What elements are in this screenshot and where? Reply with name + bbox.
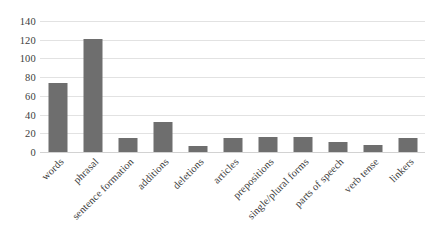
- bar-slot: [75, 21, 110, 152]
- bar-slot: [180, 21, 215, 152]
- x-label-slot: articles: [215, 152, 250, 250]
- x-tick-label: phrasal: [71, 156, 101, 186]
- bar: [153, 122, 172, 152]
- bar-slot: [320, 21, 355, 152]
- x-axis-labels: wordsphrasalsentence formationadditionsd…: [40, 152, 425, 250]
- bar-slot: [40, 21, 75, 152]
- bar-slot: [285, 21, 320, 152]
- bar: [258, 137, 277, 152]
- bar-series: [40, 21, 425, 152]
- bar: [118, 138, 137, 152]
- y-tick-label-120: 120: [0, 34, 36, 45]
- bar-slot: [215, 21, 250, 152]
- bar: [293, 137, 312, 152]
- x-label-slot: sentence formation: [110, 152, 145, 250]
- bar: [223, 138, 242, 152]
- y-axis: 140120100806040200: [0, 21, 36, 152]
- plot-area: [40, 21, 425, 152]
- bar: [48, 83, 67, 152]
- bar: [83, 39, 102, 152]
- x-label-slot: deletions: [180, 152, 215, 250]
- bar-slot: [145, 21, 180, 152]
- bar-slot: [250, 21, 285, 152]
- y-tick-label-60: 60: [0, 90, 36, 101]
- y-tick-label-20: 20: [0, 128, 36, 139]
- y-tick-label-40: 40: [0, 109, 36, 120]
- bar: [398, 138, 417, 152]
- bar-chart: 140120100806040200 wordsphrasalsentence …: [0, 0, 440, 250]
- x-tick-label: articles: [210, 156, 240, 186]
- y-tick-label-80: 80: [0, 72, 36, 83]
- x-label-slot: linkers: [390, 152, 425, 250]
- y-tick-label-0: 0: [0, 147, 36, 158]
- bar-slot: [355, 21, 390, 152]
- x-tick-label: linkers: [387, 156, 416, 185]
- y-tick-label-100: 100: [0, 53, 36, 64]
- bar-slot: [390, 21, 425, 152]
- x-label-slot: words: [40, 152, 75, 250]
- x-label-slot: verb tense: [355, 152, 390, 250]
- y-tick-label-140: 140: [0, 16, 36, 27]
- bar: [328, 142, 347, 152]
- x-tick-label: words: [39, 156, 66, 183]
- x-label-slot: additions: [145, 152, 180, 250]
- x-label-slot: parts of speech: [320, 152, 355, 250]
- bar-slot: [110, 21, 145, 152]
